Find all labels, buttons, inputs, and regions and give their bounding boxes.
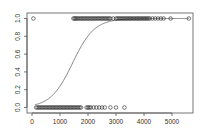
y-axis: 0.00.20.40.60.81.0: [14, 14, 27, 112]
y-tick-label: 0.4: [14, 67, 21, 76]
data-points: [32, 17, 191, 110]
x-tick-label: 4000: [137, 118, 152, 125]
logistic-curve: [35, 19, 189, 105]
y-tick-label: 0.8: [14, 31, 21, 40]
data-point: [109, 106, 113, 110]
x-tick-label: 1000: [53, 118, 68, 125]
y-tick-label: 1.0: [14, 14, 21, 23]
y-tick-label: 0.2: [14, 85, 21, 94]
data-point: [123, 106, 127, 110]
plot-border: [27, 13, 193, 113]
logistic-regression-chart: 010002000300040005000 0.00.20.40.60.81.0: [0, 0, 203, 139]
x-tick-label: 3000: [109, 118, 124, 125]
data-point: [32, 17, 36, 21]
fitted-curve: [35, 19, 189, 105]
y-tick-label: 0.0: [14, 103, 21, 112]
x-tick-label: 2000: [81, 118, 96, 125]
data-point: [114, 106, 118, 110]
x-tick-label: 0: [30, 118, 34, 125]
plot-frame: [27, 13, 193, 113]
y-tick-label: 0.6: [14, 49, 21, 58]
x-tick-label: 5000: [165, 118, 180, 125]
x-axis: 010002000300040005000: [30, 113, 179, 125]
